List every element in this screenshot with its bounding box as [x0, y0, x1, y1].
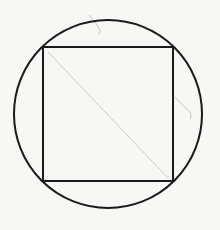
faint-diagonal-line — [48, 52, 168, 178]
pencil-mark-right — [175, 97, 191, 119]
inscribed-square-diagram — [0, 0, 220, 230]
pencil-mark-top — [89, 15, 100, 34]
